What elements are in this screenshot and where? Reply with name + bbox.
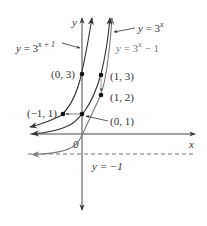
asymptote-label: y = −1 [91, 160, 123, 172]
svg-text:y = 3x + 1: y = 3x + 1 [15, 40, 55, 54]
point-1-2 [99, 93, 104, 98]
point-neg1-1 [61, 112, 66, 117]
point-label-0-1: (0, 1) [110, 115, 134, 128]
point-label-1-2: (1, 2) [110, 91, 134, 104]
y-axis-label: y [71, 16, 77, 28]
point-label-1-3: (1, 3) [110, 70, 134, 83]
exponential-graph: y x 0 y = −1 y = 3x + 1 y = 3x y = 3x − … [0, 0, 207, 226]
label-3x-minus-1: y = 3x − 1 [115, 40, 159, 54]
point-1-3 [99, 73, 104, 78]
point-label-neg1-1: (−1, 1) [27, 107, 57, 120]
point-0-3 [80, 72, 85, 77]
label-3x-plus-1: y = 3x + 1 [15, 40, 80, 54]
point-label-0-3: (0, 3) [51, 68, 75, 81]
x-axis-label: x [188, 138, 194, 150]
svg-text:y = 3x: y = 3x [137, 20, 164, 34]
point-0-1 [80, 112, 85, 117]
label-3x: y = 3x [114, 20, 164, 34]
svg-text:y = 3x − 1: y = 3x − 1 [115, 40, 159, 54]
